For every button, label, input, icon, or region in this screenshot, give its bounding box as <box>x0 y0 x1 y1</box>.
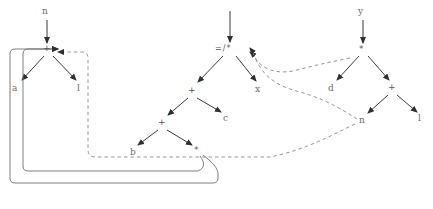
node-label-leaf-d: d <box>328 83 334 93</box>
edge-plus-c1-to-plus-c2 <box>168 98 188 115</box>
edge-plus-left-to-l <box>53 56 76 80</box>
node-label-leaf-x: x <box>255 84 260 94</box>
edge-root-to-plus-c1 <box>198 56 223 82</box>
routed-edge-dashed-to-plus-left <box>58 52 355 157</box>
edge-plus-c2-to-b <box>138 130 158 145</box>
edge-group-inputs <box>47 11 363 43</box>
node-operator-plus-center-1: + <box>188 85 196 95</box>
node-operator-star-right: * <box>359 44 364 54</box>
node-operator-plus-right: + <box>388 82 396 92</box>
edge-group-tree <box>22 56 417 145</box>
node-label-leaf-b: b <box>130 147 136 157</box>
edge-star-right-to-plus-right <box>368 56 389 80</box>
edge-group-routed-solid <box>10 49 218 183</box>
edge-group-routed-dashed <box>58 48 357 157</box>
routed-edge-dashed-plus-right-to-root <box>250 52 357 119</box>
routed-edge-star-to-plus-left-inner <box>23 49 204 171</box>
routed-edge-star-to-plus-left-outer <box>10 49 218 183</box>
edge-plus-c1-to-c <box>197 98 221 112</box>
edge-plus-right-to-n <box>368 95 388 113</box>
node-label-input-n: n <box>42 6 48 16</box>
edge-plus-right-to-l <box>397 95 417 112</box>
diagram-canvas: n y + a l =/* x + c + b * * d + n l <box>0 0 433 209</box>
edge-plus-left-to-a <box>22 56 44 80</box>
node-label-leaf-n-right: n <box>359 115 365 125</box>
diagram-svg <box>0 0 433 209</box>
edge-plus-c2-to-star-c <box>167 130 192 145</box>
node-label-leaf-l-right: l <box>418 113 421 123</box>
node-label-input-y: y <box>358 6 363 16</box>
node-label-leaf-l-left: l <box>77 83 80 93</box>
node-label-leaf-c: c <box>223 113 228 123</box>
node-operator-star-center: * <box>194 145 199 155</box>
node-operator-plus-center-2: + <box>158 117 166 127</box>
node-operator-root: =/* <box>215 44 231 53</box>
edge-root-to-x <box>236 56 256 81</box>
node-label-leaf-a: a <box>12 83 17 93</box>
routed-edge-dashed-star-right-to-root <box>250 48 350 72</box>
node-operator-plus-left: + <box>43 43 51 53</box>
